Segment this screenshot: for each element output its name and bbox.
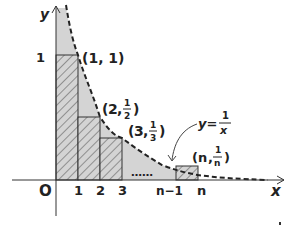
ellipsis: …… [131,166,153,179]
x-tick-2: 2 [96,183,105,198]
x-tick-1: 1 [74,183,83,198]
svg-text:n: n [214,158,220,168]
x-axis-label: x [270,182,282,200]
corner-mark [279,222,281,225]
svg-text:): ) [133,101,139,117]
svg-text:1: 1 [222,110,229,121]
svg-text:,: , [208,150,213,165]
svg-text:3: 3 [150,133,156,143]
svg-text:x: x [219,124,228,137]
svg-text:,: , [117,101,122,117]
svg-text:1: 1 [150,120,156,130]
svg-text:1: 1 [215,145,221,155]
rect-3 [100,138,122,180]
y-axis-label: y [40,6,50,22]
x-tick-n-minus-1: n−1 [156,184,183,198]
point-label-2-half: ( 2 , 1 2 ) [102,98,139,121]
rect-1 [56,55,78,180]
origin-label: O [39,182,52,200]
svg-text:y=: y= [198,116,217,131]
svg-text:): ) [224,150,230,165]
curve-equation-label: y= 1 x [198,110,231,137]
rect-2 [78,117,100,180]
rect-n [176,166,198,180]
point-label-3-third: ( 3 , 1 3 ) [128,120,165,143]
point-label-n-1-over-n: ( n , 1 n ) [192,145,230,168]
svg-text:,: , [143,123,148,139]
svg-text:): ) [159,123,165,139]
y-tick-1: 1 [36,50,45,65]
svg-text:n: n [198,150,207,165]
point-label-1-1: (1, 1) [82,50,124,66]
svg-text:1: 1 [124,98,130,108]
riemann-sum-diagram: y x O 1 1 2 3 n−1 n …… (1, 1) ( 2 , 1 2 … [0,0,293,225]
x-tick-3: 3 [118,183,127,198]
x-tick-n: n [197,183,206,198]
svg-text:2: 2 [124,111,130,121]
